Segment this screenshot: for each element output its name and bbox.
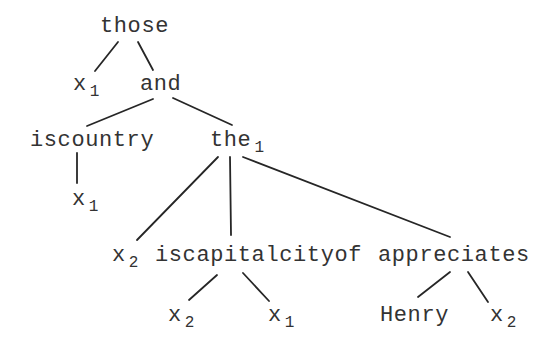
node-subscript: 2 [129, 254, 139, 272]
node-subscript: 1 [89, 198, 99, 216]
edge-the1-iscapitalcityof [230, 157, 231, 235]
node-subscript: 2 [185, 314, 195, 332]
node-label: those [100, 14, 169, 39]
edge-the1-x2 [137, 157, 218, 240]
node-label: appreciates [378, 243, 530, 268]
node-x1-top: x1 [73, 74, 99, 97]
node-subscript: 2 [507, 314, 517, 332]
node-subscript: 1 [90, 83, 100, 101]
node-label: and [140, 72, 181, 97]
edge-the1-appreciates [243, 157, 450, 237]
tree-diagram: those x1 and iscountry the1 x1 x2 iscapi… [0, 0, 556, 348]
edge-appreciates-henry [418, 272, 450, 297]
node-label: x [73, 72, 87, 97]
edge-those-x1 [95, 42, 118, 71]
node-label: x [112, 243, 126, 268]
edge-iscapitalcityof-x1 [243, 273, 269, 301]
node-x2-under-appreciates: x2 [490, 305, 516, 328]
node-label: x [490, 303, 504, 328]
node-label: the [210, 128, 251, 153]
edge-and-iscountry [87, 99, 153, 126]
node-label: Henry [380, 303, 449, 328]
node-iscapitalcityof: iscapitalcityof [155, 245, 365, 268]
node-subscript: 1 [254, 139, 264, 157]
node-label: iscapitalcityof [155, 243, 362, 268]
node-appreciates: appreciates [378, 245, 533, 268]
node-subscript: 1 [285, 314, 295, 332]
edge-and-the1 [173, 98, 232, 125]
tree-edges [0, 0, 556, 348]
edge-those-and [138, 42, 153, 70]
node-those: those [100, 16, 172, 39]
node-and: and [140, 74, 184, 97]
node-label: x [268, 303, 282, 328]
node-label: x [168, 303, 182, 328]
node-label: x [72, 187, 86, 212]
node-label: iscountry [30, 128, 154, 153]
node-the1: the1 [210, 130, 264, 153]
node-x1-under-iscapitalcityof: x1 [268, 305, 294, 328]
node-x1-under-iscountry: x1 [72, 189, 98, 212]
edge-appreciates-x2 [468, 272, 488, 302]
node-henry: Henry [380, 305, 452, 328]
edge-iscapitalcityof-x2 [189, 275, 217, 300]
node-x2-under-the1: x2 [112, 245, 138, 268]
node-iscountry: iscountry [30, 130, 157, 153]
node-x2-under-iscapitalcityof: x2 [168, 305, 194, 328]
